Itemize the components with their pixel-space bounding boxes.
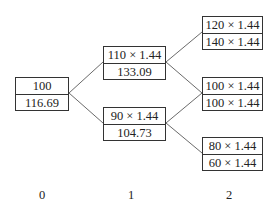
- edge-n0-n1d: [69, 93, 103, 123]
- node-t0-result: 116.69: [16, 95, 68, 111]
- edge-n1u-n2u: [166, 32, 202, 62]
- node-t1-up-value: 110 × 1.44: [104, 47, 165, 64]
- node-t1-up-result: 133.09: [104, 64, 165, 80]
- edge-n0-n1u: [69, 62, 103, 93]
- edge-n1u-n2m: [166, 62, 202, 93]
- node-t0-value: 100: [16, 78, 68, 95]
- time-label-1: 1: [121, 188, 141, 203]
- time-label-2: 2: [219, 188, 239, 203]
- node-t2-mid: 100 × 1.44 100 × 1.44: [202, 77, 263, 111]
- node-t2-up-value: 120 × 1.44: [203, 17, 262, 34]
- node-t2-mid-result: 100 × 1.44: [203, 95, 262, 111]
- node-t2-down-value: 80 × 1.44: [203, 138, 262, 155]
- node-t2-down-result: 60 × 1.44: [203, 155, 262, 171]
- node-t2-up: 120 × 1.44 140 × 1.44: [202, 16, 263, 50]
- edge-n1d-n2d: [166, 123, 202, 153]
- edge-n1d-n2m: [166, 93, 202, 123]
- node-t1-down: 90 × 1.44 104.73: [103, 107, 166, 141]
- node-t2-up-result: 140 × 1.44: [203, 34, 262, 50]
- node-t2-mid-value: 100 × 1.44: [203, 78, 262, 95]
- node-t2-down: 80 × 1.44 60 × 1.44: [202, 137, 263, 171]
- node-t1-up: 110 × 1.44 133.09: [103, 46, 166, 80]
- node-t0: 100 116.69: [15, 77, 69, 111]
- time-label-0: 0: [32, 188, 52, 203]
- node-t1-down-result: 104.73: [104, 125, 165, 141]
- node-t1-down-value: 90 × 1.44: [104, 108, 165, 125]
